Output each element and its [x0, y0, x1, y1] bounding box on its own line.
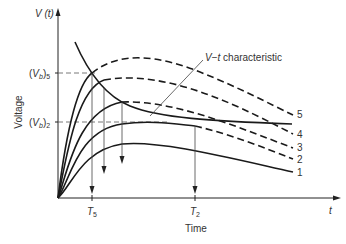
curve-label-2: 2: [297, 154, 303, 165]
vt-characteristic-diagram: V (t) Voltage (Vb)5 (Vb)2 T5 T2 t Time V…: [0, 0, 346, 244]
curve-1: [58, 143, 293, 198]
curve-2-rise: [58, 122, 195, 198]
vt-characteristic-label: V−t characteristic: [205, 52, 282, 63]
svg-text:(Vb)2: (Vb)2: [29, 117, 50, 129]
svg-text:(Vb)5: (Vb)5: [29, 68, 50, 80]
curve-3-tail: [122, 102, 293, 148]
annotation-leader: [150, 60, 203, 116]
svg-text:T5: T5: [87, 206, 97, 218]
curve-label-1: 1: [297, 167, 303, 178]
y-tick-label-vb2: (Vb)2: [29, 117, 50, 129]
y-tick-label-vb5: (Vb)5: [29, 68, 50, 80]
x-axis-label: Time: [185, 223, 207, 234]
curve-label-4: 4: [297, 129, 303, 140]
svg-text:T2: T2: [190, 206, 200, 218]
y-axis-label: Voltage: [13, 95, 24, 129]
curve-label-5: 5: [297, 109, 303, 120]
x-axis-symbol: t: [329, 205, 333, 216]
x-tick-label-t5: T5: [87, 206, 97, 218]
curve-4-tail: [104, 78, 293, 134]
curve-label-3: 3: [297, 142, 303, 153]
x-tick-label-t2: T2: [190, 206, 200, 218]
curve-4-rise: [58, 80, 104, 198]
y-axis-symbol: V (t): [35, 8, 54, 19]
